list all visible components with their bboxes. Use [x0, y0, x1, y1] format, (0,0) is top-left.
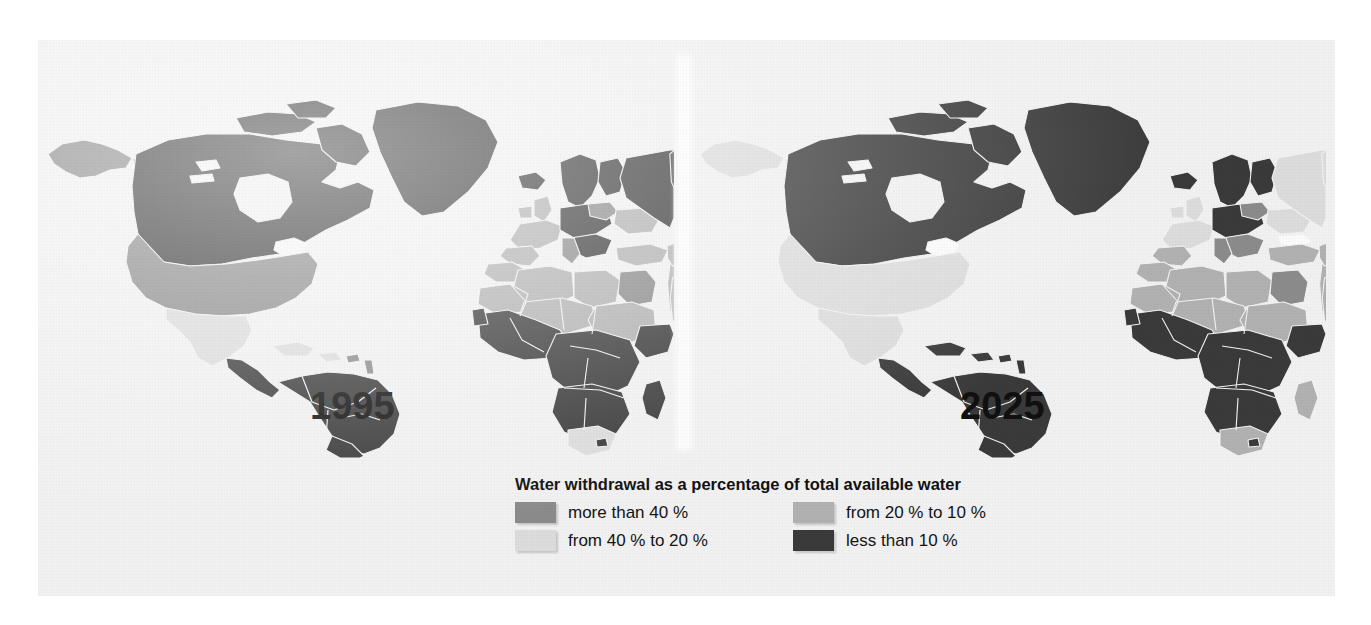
legend-label-20-to-10: from 20 % to 10 %: [846, 503, 986, 523]
legend: Water withdrawal as a percentage of tota…: [478, 475, 978, 551]
figure-root: 1995 2025 Water withdrawal as a percenta…: [0, 0, 1371, 625]
legend-swatch-more-than-40: [515, 502, 556, 523]
legend-item-more-than-40[interactable]: more than 40 %: [515, 502, 793, 523]
legend-swatch-40-to-20: [515, 530, 556, 551]
legend-swatch-20-to-10: [793, 502, 834, 523]
legend-label-more-than-40: more than 40 %: [568, 503, 688, 523]
legend-label-less-than-10: less than 10 %: [846, 531, 958, 551]
region-russia-siberia: [1322, 134, 1326, 212]
region-turkey-east: [667, 242, 674, 266]
legend-grid: more than 40 % from 20 % to 10 % from 40…: [515, 502, 978, 551]
legend-label-40-to-20: from 40 % to 20 %: [568, 531, 708, 551]
legend-swatch-less-than-10: [793, 530, 834, 551]
region-turkey-east: [1319, 242, 1326, 266]
legend-title: Water withdrawal as a percentage of tota…: [515, 475, 978, 494]
figure-panel: 1995 2025 Water withdrawal as a percenta…: [38, 40, 1335, 596]
region-russia-siberia: [670, 134, 674, 212]
year-label-1995: 1995: [310, 385, 395, 428]
year-label-2025: 2025: [960, 385, 1045, 428]
legend-item-40-to-20[interactable]: from 40 % to 20 %: [515, 530, 793, 551]
panel-divider: [679, 58, 689, 448]
legend-item-20-to-10[interactable]: from 20 % to 10 %: [793, 502, 986, 523]
legend-item-less-than-10[interactable]: less than 10 %: [793, 530, 986, 551]
